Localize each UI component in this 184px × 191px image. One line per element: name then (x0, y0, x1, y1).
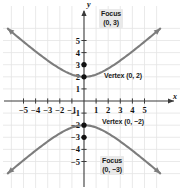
point-vertex-top (81, 74, 86, 79)
vertex-top-label: Vertex (0, 2) (102, 71, 144, 82)
svg-text:−3: −3 (71, 132, 80, 142)
coordinate-plane-svg: −5−4−3−2−112345−5−4−3−2−112345 (0, 0, 184, 191)
svg-text:1: 1 (94, 105, 98, 115)
focus-top-label: Focus (0, 3) (99, 9, 123, 28)
y-axis-name-label: y (87, 0, 91, 9)
axis-lines (4, 10, 174, 187)
svg-text:4: 4 (130, 105, 135, 115)
vertex-bottom-label: Vertex (0, −2) (100, 117, 146, 128)
point-focus-top (81, 62, 86, 67)
svg-text:−1: −1 (71, 108, 80, 118)
point-focus-bot (81, 135, 86, 140)
focus-bottom-label-line2: (0, −3) (102, 166, 122, 175)
svg-text:−5: −5 (71, 157, 80, 167)
svg-text:5: 5 (76, 36, 80, 46)
svg-text:−5: −5 (19, 105, 28, 115)
svg-text:3: 3 (118, 105, 122, 115)
x-axis-name-label: x (173, 92, 177, 101)
focus-top-label-line1: Focus (101, 10, 121, 19)
svg-text:3: 3 (76, 60, 80, 70)
point-vertex-bot (81, 123, 86, 128)
svg-text:−4: −4 (31, 105, 41, 115)
svg-text:5: 5 (142, 105, 146, 115)
focus-bottom-label-line1: Focus (102, 157, 122, 166)
svg-text:−2: −2 (55, 105, 64, 115)
svg-text:−3: −3 (43, 105, 52, 115)
svg-text:2: 2 (106, 105, 110, 115)
focus-bottom-label: Focus (0, −3) (100, 156, 124, 175)
focus-top-label-line2: (0, 3) (101, 19, 121, 28)
hyperbola-graph-figure: −5−4−3−2−112345−5−4−3−2−112345 Focus (0,… (0, 0, 184, 191)
y-axis-arrow-icon (81, 10, 86, 16)
svg-text:1: 1 (76, 84, 80, 94)
svg-text:−4: −4 (71, 144, 81, 154)
